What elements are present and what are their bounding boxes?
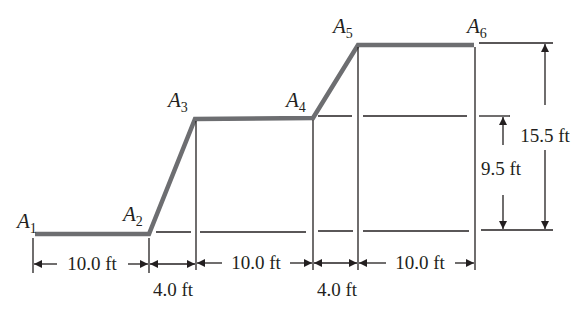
extension-lines xyxy=(33,47,475,273)
ramp-profile xyxy=(35,45,474,234)
dim-label-a1-a2: 10.0 ft xyxy=(67,253,117,274)
dim-label-a3-a4: 10.0 ft xyxy=(231,252,281,273)
dim-label-9-5: 9.5 ft xyxy=(481,158,522,179)
dim-label-a4-a5: 4.0 ft xyxy=(317,279,358,300)
label-a3: A3 xyxy=(166,88,188,115)
label-a2: A2 xyxy=(121,202,143,229)
label-a5: A5 xyxy=(331,14,353,41)
reference-lines xyxy=(156,43,553,232)
label-a1: A1 xyxy=(15,209,37,236)
label-a4: A4 xyxy=(284,88,306,115)
label-a6: A6 xyxy=(465,14,487,41)
dim-label-15-5: 15.5 ft xyxy=(520,125,570,146)
dim-label-a2-a3: 4.0 ft xyxy=(153,279,194,300)
ramp-diagram: A1 A2 A3 A4 A5 A6 10.0 ft 4.0 ft 10.0 ft… xyxy=(0,0,583,318)
dim-label-a5-a6: 10.0 ft xyxy=(395,252,445,273)
